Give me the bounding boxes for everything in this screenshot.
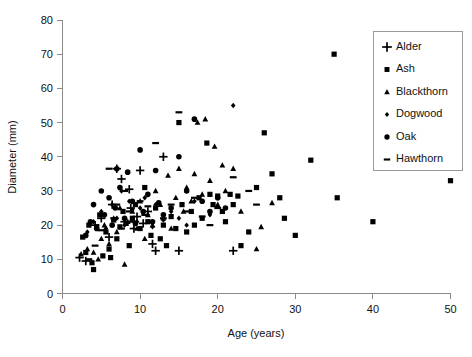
marker-plus	[159, 153, 167, 161]
marker-square	[173, 226, 178, 231]
marker-dash	[144, 205, 151, 207]
chart-canvas: 01020304050607080 01020304050 AlderAshBl…	[0, 0, 472, 357]
y-tick-label: 30	[41, 185, 53, 197]
y-axis-title: Diameter (mm)	[6, 120, 18, 193]
marker-diamond	[231, 103, 236, 108]
marker-square	[164, 243, 169, 248]
marker-circle	[117, 185, 123, 191]
y-tick-label: 10	[41, 253, 53, 265]
marker-square	[282, 216, 287, 221]
marker-square	[277, 195, 282, 200]
marker-plus	[136, 166, 144, 174]
marker-square	[207, 192, 212, 197]
legend-label-dogwood: Dogwood	[396, 107, 442, 119]
marker-diamond	[150, 224, 155, 229]
y-tick-label: 70	[41, 48, 53, 60]
marker-circle	[130, 198, 136, 204]
marker-triangle	[98, 236, 104, 241]
marker-square	[254, 185, 259, 190]
marker-triangle	[165, 172, 171, 177]
marker-triangle	[168, 225, 174, 230]
marker-plus	[125, 185, 133, 193]
marker-triangle	[192, 171, 198, 176]
marker-plus	[175, 247, 183, 255]
marker-square	[179, 202, 184, 207]
marker-circle	[140, 209, 146, 215]
marker-dash	[85, 258, 92, 260]
marker-square	[269, 171, 274, 176]
marker-square	[130, 216, 135, 221]
marker-circle	[99, 188, 105, 194]
marker-triangle	[202, 116, 208, 121]
marker-triangle	[207, 178, 213, 183]
marker-dash	[141, 214, 148, 216]
marker-dash	[183, 210, 190, 212]
marker-square	[91, 267, 96, 272]
marker-square	[448, 178, 453, 183]
marker-square	[108, 255, 113, 260]
legend-label-hawthorn: Hawthorn	[396, 152, 443, 164]
marker-square	[148, 233, 153, 238]
marker-square	[89, 260, 94, 265]
marker-circle	[176, 154, 182, 160]
marker-dash	[92, 245, 99, 247]
marker-circle	[215, 195, 221, 201]
x-axis: 01020304050	[59, 294, 456, 316]
legend-label-oak: Oak	[396, 130, 417, 142]
marker-circle	[153, 168, 159, 174]
y-tick-label: 80	[41, 14, 53, 26]
marker-dash	[245, 190, 252, 192]
legend-label-ash: Ash	[396, 62, 415, 74]
y-tick-label: 20	[41, 219, 53, 231]
marker-circle	[122, 215, 128, 221]
marker-triangle	[215, 202, 221, 207]
marker-square	[114, 236, 119, 241]
marker-triangle	[106, 241, 112, 246]
marker-square	[308, 158, 313, 163]
marker-dash	[160, 217, 167, 219]
marker-circle	[168, 205, 174, 211]
marker-square	[145, 219, 150, 224]
marker-square	[262, 130, 267, 135]
marker-plus	[229, 247, 237, 255]
circle-icon	[384, 134, 389, 139]
marker-dash	[168, 204, 175, 206]
marker-dash	[230, 176, 237, 178]
marker-triangle	[254, 246, 260, 251]
marker-dash	[207, 224, 214, 226]
marker-triangle	[219, 162, 225, 167]
marker-square	[127, 243, 132, 248]
marker-square	[106, 246, 111, 251]
y-tick-label: 40	[41, 151, 53, 163]
marker-dash	[214, 207, 221, 209]
series-hawthorn	[85, 111, 259, 260]
x-tick-label: 10	[134, 303, 146, 315]
marker-triangle	[114, 229, 120, 234]
marker-circle	[192, 116, 198, 122]
marker-diamond	[184, 222, 189, 227]
marker-square	[192, 223, 197, 228]
marker-circle	[145, 192, 151, 198]
marker-triangle	[238, 208, 244, 213]
marker-square	[231, 202, 236, 207]
marker-dash	[106, 168, 113, 170]
marker-square	[210, 202, 215, 207]
marker-circle	[91, 202, 97, 208]
marker-circle	[184, 188, 190, 194]
x-tick-label: 0	[59, 303, 65, 315]
marker-dash	[199, 215, 206, 217]
marker-circle	[207, 209, 213, 215]
marker-circle	[156, 200, 162, 206]
marker-dash	[113, 204, 120, 206]
marker-square	[176, 120, 181, 125]
marker-dash	[253, 204, 260, 206]
marker-dash	[137, 200, 144, 202]
marker-square	[158, 236, 163, 241]
marker-triangle	[173, 195, 179, 200]
y-axis: 01020304050607080	[41, 14, 63, 300]
marker-circle	[109, 222, 115, 228]
marker-circle	[83, 233, 89, 239]
marker-square	[228, 192, 233, 197]
marker-circle	[88, 219, 94, 225]
marker-triangle	[269, 200, 275, 205]
